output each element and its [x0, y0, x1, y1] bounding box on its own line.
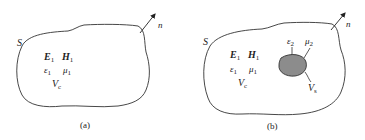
leader-mu2	[304, 48, 310, 58]
field-E1-b: E1	[229, 49, 241, 62]
param-mu1-a: μ1	[62, 65, 72, 77]
field-H1-b: H1	[247, 49, 260, 62]
inclusion-region	[279, 55, 306, 77]
param-eps1-b: ε1	[230, 64, 238, 76]
surface-label-a: S	[17, 37, 22, 48]
normal-label-b: n	[346, 19, 351, 29]
param-mu1-b: μ1	[248, 64, 258, 76]
leader-Vs	[305, 72, 311, 82]
surface-boundary-b	[204, 22, 345, 114]
normal-label-a: n	[158, 20, 163, 30]
param-eps1-a: ε1	[44, 65, 52, 77]
volume-label-b: Vc	[238, 77, 247, 90]
surface-boundary-a	[17, 24, 150, 106]
panel-b: n S E1 H1 ε1 μ1 Vc ε2 μ2 Vs (b)	[203, 13, 351, 131]
caption-a: (a)	[80, 120, 90, 130]
diagram-canvas: n S E1 H1 ε1 μ1 Vc (a) n S E1 H1 ε1 μ1 V…	[0, 0, 365, 140]
param-eps2: ε2	[287, 36, 295, 48]
caption-b: (b)	[267, 121, 278, 131]
volume-label-a: Vc	[52, 78, 61, 91]
surface-label-b: S	[203, 36, 208, 47]
param-mu2: μ2	[304, 36, 314, 48]
normal-arrow-a	[140, 14, 155, 33]
field-H1-a: H1	[61, 51, 74, 64]
normal-arrow-b	[331, 13, 345, 30]
inclusion-volume-label: Vs	[308, 82, 317, 95]
panel-a: n S E1 H1 ε1 μ1 Vc (a)	[17, 14, 163, 130]
field-E1-a: E1	[43, 51, 55, 64]
